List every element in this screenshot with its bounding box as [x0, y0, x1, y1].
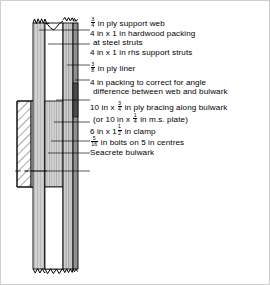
callout-text: in ply support web — [95, 19, 164, 28]
callout-label-stack: 34 in ply support web4 in x 1 in hardwoo… — [90, 17, 270, 157]
callout-text: in bolts on 5 in centres — [98, 138, 184, 147]
callout-line: 6 in x 112 in clamp — [90, 125, 270, 137]
callout-line: difference between web and bulwark — [90, 87, 270, 97]
callout-text: in m.s. plate) — [138, 115, 188, 124]
callout-line: 34 in ply support web — [90, 17, 270, 29]
callout-text: (or 10 in x — [93, 115, 132, 124]
callout-text: 4 in x 1 in hardwood packing — [90, 29, 195, 38]
callout-text: 4 in packing to correct for angle — [90, 78, 206, 87]
cross-section-drawing — [1, 1, 101, 285]
callout-line: 4 in x 1 in hardwood packing — [90, 29, 270, 39]
callout-line: 4 in x 1 in rhs support struts — [90, 48, 270, 58]
fraction-1-4: 14 — [133, 113, 137, 125]
callout-ply-liner: 38 in ply liner — [90, 62, 270, 74]
callout-rhs-support-struts: 4 in x 1 in rhs support struts — [90, 48, 270, 58]
callout-bolts: 516 in bolts on 5 in centres — [90, 136, 270, 148]
fraction-5-16: 516 — [91, 136, 98, 148]
callout-text: difference between web and bulwark — [93, 87, 228, 96]
callout-text: 4 in x 1 in rhs support struts — [90, 48, 192, 57]
ply-support-web — [33, 23, 45, 269]
callout-hardwood-packing: 4 in x 1 in hardwood packingat steel str… — [90, 29, 270, 48]
ply-liner-strip — [73, 23, 78, 269]
fraction-3-8: 38 — [91, 62, 95, 74]
callout-text: at steel struts — [93, 38, 143, 47]
callout-seacrete-bulwark: Seacrete bulwark — [90, 148, 270, 158]
callout-text: 6 in x 1 — [90, 126, 117, 135]
angle-packing-block — [45, 101, 63, 269]
callout-text: in clamp — [122, 126, 155, 135]
callout-line: 38 in ply liner — [90, 62, 270, 74]
callout-line: at steel struts — [90, 38, 270, 48]
callout-clamp: 6 in x 112 in clamp — [90, 125, 270, 137]
fraction-1-2: 12 — [118, 124, 122, 136]
callout-text: 10 in x — [90, 103, 117, 112]
figure-canvas: 34 in ply support web4 in x 1 in hardwoo… — [0, 0, 270, 285]
callout-line: Seacrete bulwark — [90, 148, 270, 158]
callout-line: 10 in x 34 in ply bracing along bulwark — [90, 101, 270, 113]
callout-line: 4 in packing to correct for angle — [90, 78, 270, 88]
fraction-3-4: 34 — [118, 101, 122, 113]
callout-ply-support-web: 34 in ply support web — [90, 17, 270, 29]
callout-line: 516 in bolts on 5 in centres — [90, 136, 270, 148]
rhs-support-struts — [63, 23, 73, 269]
callout-ply-bracing: 10 in x 34 in ply bracing along bulwark(… — [90, 101, 270, 124]
callout-angle-packing: 4 in packing to correct for anglediffere… — [90, 78, 270, 97]
fraction-3-4: 34 — [91, 17, 95, 29]
callout-text: Seacrete bulwark — [90, 148, 154, 157]
callout-text: in ply liner — [95, 63, 135, 72]
callout-line: (or 10 in x 14 in m.s. plate) — [90, 113, 270, 125]
callout-text: in ply bracing along bulwark — [122, 103, 227, 112]
